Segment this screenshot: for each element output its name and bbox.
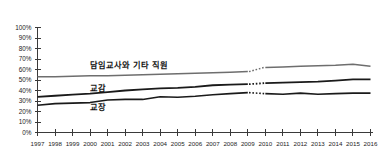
x-tick-label: 1998 — [48, 140, 62, 147]
series-line — [265, 79, 370, 83]
x-tick-label: 1999 — [66, 140, 80, 147]
series-label-2: 교감 — [90, 83, 106, 93]
x-tick-label: 2001 — [101, 140, 115, 147]
series-break-connector — [249, 83, 264, 84]
x-tick-label: 2004 — [153, 140, 167, 147]
x-tick-label: 2005 — [171, 140, 185, 147]
y-tick-label: 70% — [19, 55, 32, 62]
x-tick-label: 2009 — [241, 140, 255, 147]
x-tick-label: 2015 — [346, 140, 360, 147]
line-chart: 100%90%80%70%60%50%40%30%20%10%0% 199719… — [0, 0, 382, 156]
data-series-group — [38, 64, 371, 105]
x-tick-label: 2012 — [294, 140, 308, 147]
x-tick-label: 2014 — [329, 140, 343, 147]
y-axis-tick-labels: 100%90%80%70%60%50%40%30%20%10%0% — [15, 24, 32, 136]
y-tick-label: 0% — [22, 129, 32, 136]
x-tick-label: 2003 — [136, 140, 150, 147]
x-tick-label: 2010 — [258, 140, 272, 147]
series-line — [38, 72, 248, 77]
series-break-connector — [249, 67, 264, 71]
x-tick-label: 2008 — [223, 140, 237, 147]
y-tick-label: 60% — [19, 66, 32, 73]
x-tick-label: 2007 — [206, 140, 220, 147]
series-line — [265, 93, 370, 94]
y-tick-label: 10% — [19, 118, 32, 125]
series-inline-labels: 담임교사와 기타 직원교감교장 — [90, 60, 168, 112]
y-tick-label: 80% — [19, 45, 32, 52]
y-tick-label: 50% — [19, 76, 32, 83]
x-tick-label: 2000 — [83, 140, 97, 147]
x-tick-label: 2002 — [118, 140, 132, 147]
chart-canvas: 100%90%80%70%60%50%40%30%20%10%0% 199719… — [0, 0, 382, 156]
x-tick-label: 2013 — [311, 140, 325, 147]
y-tick-label: 40% — [19, 87, 32, 94]
series-label-3: 교장 — [90, 102, 106, 112]
x-tick-label: 1997 — [31, 140, 45, 147]
x-axis-tick-labels: 1997199819992000200120022003200420052006… — [31, 140, 378, 147]
y-tick-label: 90% — [19, 34, 32, 41]
series-label-1: 담임교사와 기타 직원 — [90, 60, 168, 70]
x-tick-label: 2016 — [364, 140, 378, 147]
series-break-connector — [249, 93, 264, 94]
x-tick-label: 2011 — [276, 140, 290, 147]
y-tick-label: 20% — [19, 108, 32, 115]
x-tick-label: 2006 — [188, 140, 202, 147]
x-axis-group: 1997199819992000200120022003200420052006… — [31, 129, 378, 147]
series-line — [265, 64, 370, 67]
y-tick-label: 30% — [19, 97, 32, 104]
y-tick-label: 100% — [15, 24, 32, 31]
y-axis-group: 100%90%80%70%60%50%40%30%20%10%0% — [15, 24, 40, 136]
